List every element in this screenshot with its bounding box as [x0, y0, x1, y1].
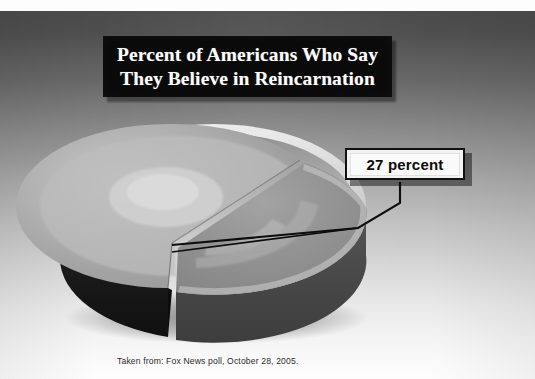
callout-inner-frame: 27 percent — [350, 153, 460, 176]
page-title: Percent of Americans Who Say They Believ… — [117, 43, 378, 91]
title-banner: Percent of Americans Who Say They Believ… — [103, 36, 392, 97]
source-caption: Taken from: Fox News poll, October 28, 2… — [117, 356, 298, 366]
callout-value-label: 27 percent — [366, 156, 443, 173]
callout-box: 27 percent — [345, 148, 465, 180]
slide-canvas: Percent of Americans Who Say They Believ… — [0, 0, 535, 379]
pie-gloss-highlight-core — [127, 174, 199, 210]
